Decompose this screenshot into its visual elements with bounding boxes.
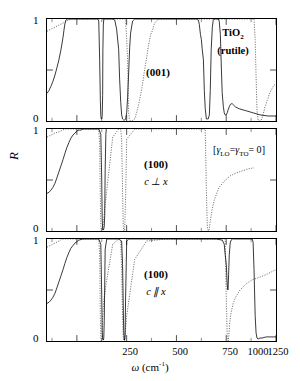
figure-canvas: 1 0 1 0 1 0 R 250 500 750 1000 1250 ω (c… (0, 0, 300, 381)
material-phase-label: (rutile) (196, 44, 270, 57)
gamma-lo-subscript: LO (220, 150, 229, 158)
xtick-label-1250: 1250 (258, 346, 298, 357)
x-units-open: (cm (142, 361, 159, 373)
ytick-label-bot-0: 0 (33, 333, 39, 344)
material-title-text: TiO (222, 27, 240, 38)
material-title: TiO2 (196, 26, 270, 42)
xtick-label-500: 500 (160, 346, 200, 357)
x-axis-label: ω (cm-1) (0, 360, 300, 373)
bracket-close: ] (262, 144, 265, 155)
xtick-label-250: 250 (110, 346, 150, 357)
equals-zero: = 0 (248, 144, 261, 155)
panel-label-001: (001) (130, 66, 186, 80)
curve-damped-100-perp (47, 129, 106, 230)
x-units-close: ) (165, 361, 169, 373)
damping-annotation: [γLO=γTO= 0] (196, 144, 282, 159)
ytick-label-top-0: 0 (33, 113, 39, 124)
panel-label-100-perp: (100) (128, 158, 184, 172)
panel-polarization-100-par: c ∥ x (128, 285, 184, 298)
ytick-label-mid-1: 1 (33, 125, 39, 136)
ytick-label-bot-1: 1 (33, 235, 39, 246)
material-title-subscript: 2 (240, 33, 244, 41)
ytick-label-top-1: 1 (33, 15, 39, 26)
y-axis-label: R (6, 152, 22, 160)
ytick-label-mid-0: 0 (33, 223, 39, 234)
panel-polarization-100-perp: c ⊥ x (128, 175, 184, 188)
panel-label-100-par: (100) (128, 268, 184, 282)
